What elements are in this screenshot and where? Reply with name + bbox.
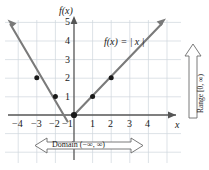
y-axis-label: f(x) [59, 6, 73, 16]
y-axis-arrowhead [71, 16, 78, 24]
curve-left-arrowhead [8, 20, 17, 28]
data-point [34, 75, 39, 80]
x-tick-label-3: 3 [127, 119, 132, 129]
x-tick-label-neg1: −1 [62, 119, 73, 129]
y-tick-label-1: 1 [65, 92, 70, 102]
y-tick-label-5: 5 [65, 17, 70, 27]
x-tick-label-neg4: −4 [12, 119, 23, 129]
data-point [90, 94, 95, 99]
domain-label: Domain (−∞, ∞) [52, 141, 105, 149]
x-tick-label-neg2: −2 [49, 119, 60, 129]
x-axis-label: x [175, 120, 179, 130]
x-tick-label-1: 1 [90, 119, 95, 129]
data-point [53, 94, 58, 99]
x-tick-label-neg3: −3 [31, 119, 42, 129]
y-tick-label-2: 2 [65, 73, 70, 83]
y-tick-label-3: 3 [65, 55, 70, 65]
x-tick-label-4: 4 [145, 119, 150, 129]
absolute-value-curve [8, 19, 167, 122]
x-axis-arrowhead [168, 112, 176, 119]
absolute-value-function-figure: f(x) x f(x) = | x | −4 −3 −2 −1 1 2 3 4 … [0, 0, 209, 170]
range-label: Range [0, ∞) [196, 74, 205, 113]
x-tick-label-2: 2 [108, 119, 113, 129]
function-equation-label: f(x) = | x | [104, 37, 145, 47]
y-tick-label-4: 4 [65, 36, 70, 46]
axes [8, 16, 176, 160]
data-point [109, 75, 114, 80]
